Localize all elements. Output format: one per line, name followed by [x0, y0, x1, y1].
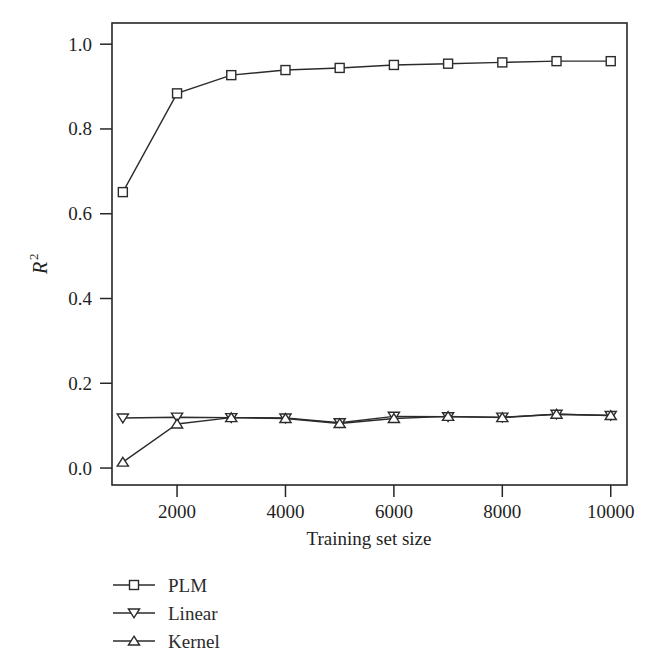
y-tick-label: 0.6	[68, 203, 92, 224]
series-line-kernel	[123, 414, 611, 462]
y-tick-label: 0.4	[68, 288, 92, 309]
y-tick-label: 1.0	[68, 34, 92, 55]
data-point-plm-5000	[335, 63, 344, 72]
y-axis-title: R 2	[26, 254, 51, 276]
chart-legend: PLMLinearKernel	[113, 575, 220, 652]
x-tick-label: 4000	[266, 501, 304, 522]
chart-figure: 0.00.20.40.60.81.0 200040006000800010000…	[0, 0, 654, 669]
x-tick-label: 6000	[375, 501, 413, 522]
legend-label-kernel: Kernel	[168, 631, 220, 652]
data-point-plm-1000	[118, 188, 127, 197]
y-axis-ticks: 0.00.20.40.60.81.0	[68, 34, 112, 479]
legend-label-linear: Linear	[168, 603, 218, 624]
data-point-plm-8000	[498, 58, 507, 67]
y-tick-label: 0.8	[68, 118, 92, 139]
data-point-plm-7000	[444, 59, 453, 68]
data-point-plm-9000	[552, 57, 561, 66]
x-tick-label: 8000	[483, 501, 521, 522]
data-point-plm-6000	[389, 60, 398, 69]
y-tick-label: 0.2	[68, 373, 92, 394]
data-point-plm-10000	[606, 57, 615, 66]
legend-item-plm[interactable]: PLM	[113, 575, 207, 596]
series-linear	[117, 410, 616, 427]
data-series-group	[117, 57, 616, 466]
legend-label-plm: PLM	[168, 575, 207, 596]
plot-frame	[112, 23, 627, 485]
y-axis-title-superscript: 2	[26, 254, 41, 261]
x-axis-ticks: 200040006000800010000	[158, 485, 634, 522]
legend-marker-plm	[130, 581, 139, 590]
x-tick-label: 2000	[158, 501, 196, 522]
series-plm	[118, 57, 615, 197]
data-point-plm-4000	[281, 66, 290, 75]
series-line-plm	[123, 61, 611, 192]
y-axis-title-base: R	[29, 262, 51, 275]
x-axis-title: Training set size	[307, 528, 432, 549]
r2-vs-training-set-size-line-chart: 0.00.20.40.60.81.0 200040006000800010000…	[0, 0, 654, 669]
x-tick-label: 10000	[587, 501, 635, 522]
legend-item-kernel[interactable]: Kernel	[113, 631, 220, 652]
y-tick-label: 0.0	[68, 458, 92, 479]
data-point-plm-3000	[227, 71, 236, 80]
data-point-plm-2000	[173, 89, 182, 98]
legend-item-linear[interactable]: Linear	[113, 603, 218, 624]
